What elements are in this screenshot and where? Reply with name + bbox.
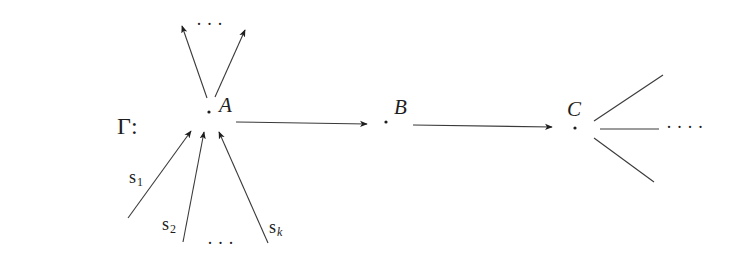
outgoing-a-ellipsis: · · ·	[196, 14, 223, 34]
edge-s2	[183, 132, 204, 242]
edge-a-up-left	[182, 26, 207, 98]
edge-sk	[219, 132, 268, 243]
edge-a-to-b	[236, 122, 367, 124]
node-c-label: C	[567, 97, 582, 121]
node-b: B	[384, 95, 407, 124]
edge-s2-label: s2	[162, 214, 176, 236]
incoming-edges-a: s1 s2 sk · · ·	[128, 131, 283, 253]
node-c-point	[573, 126, 576, 129]
outgoing-edges-c: · · · ·	[594, 75, 703, 182]
incoming-a-ellipsis: · · ·	[207, 233, 234, 253]
graph-name-label: Γ:	[117, 113, 138, 139]
graph-diagram: Γ: A · · · s1 s2 sk · · · B C	[0, 0, 747, 259]
outgoing-c-ellipsis: · · · ·	[666, 117, 703, 137]
edge-c-upper	[594, 75, 663, 121]
node-a-label: A	[217, 93, 232, 117]
outgoing-edges-a: · · ·	[182, 14, 245, 98]
edge-b-to-c	[413, 125, 552, 127]
edge-a-up-right	[215, 30, 245, 97]
edge-sk-label: sk	[269, 217, 283, 239]
node-a-point	[207, 110, 210, 113]
node-c: C	[567, 97, 582, 130]
node-b-point	[384, 120, 387, 123]
edge-s1-label: s1	[129, 167, 143, 189]
edge-c-lower	[594, 138, 654, 182]
node-a: A	[207, 93, 232, 117]
node-b-label: B	[394, 95, 407, 119]
